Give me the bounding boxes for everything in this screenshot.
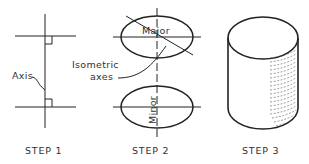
axis-label: Axis: [12, 70, 33, 81]
minor-label: Minor: [147, 96, 158, 124]
bottom-right-angle-mark: [45, 99, 52, 107]
major-label: Major: [142, 25, 170, 36]
isometric-cylinder-diagram: Axis Major Minor Isometric axes: [0, 0, 309, 164]
step-2-label: STEP 2: [132, 145, 169, 156]
isometric-label-line1: Isometric: [72, 59, 119, 70]
cylinder-shading-lines: [270, 50, 296, 126]
top-right-angle-mark: [45, 36, 52, 44]
step-3-label: STEP 3: [242, 145, 279, 156]
cylinder-bottom-arc: [228, 108, 298, 129]
step-3-drawing: [228, 17, 298, 129]
isometric-label-line2: axes: [90, 71, 113, 82]
isometric-leader-line: [118, 46, 166, 78]
axis-leader-line: [32, 77, 45, 90]
cylinder-top-ellipse: [228, 17, 298, 59]
step-1-label: STEP 1: [25, 145, 62, 156]
